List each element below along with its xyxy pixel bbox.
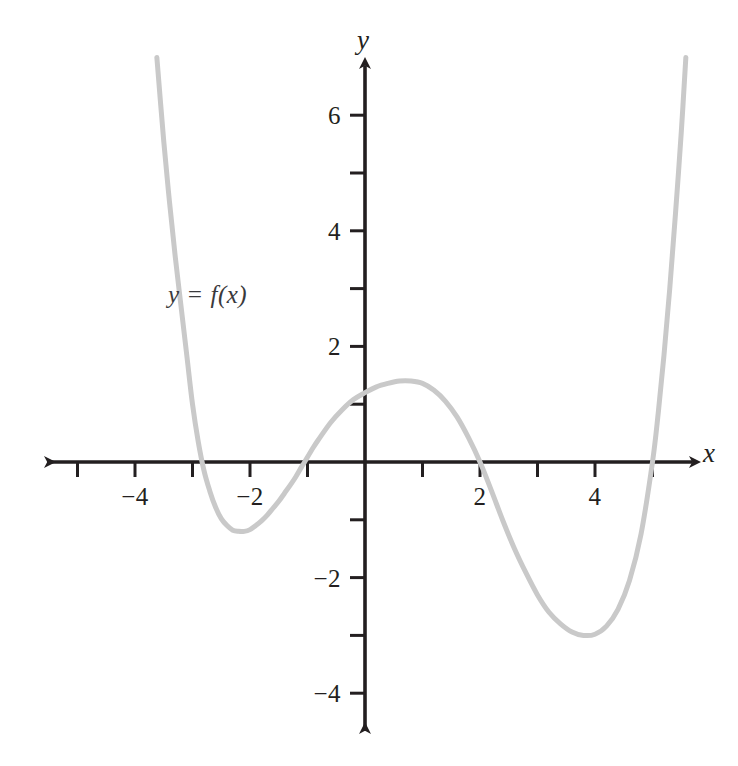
y-tick-label-6: 6: [328, 103, 341, 128]
x-tick-label--2: −2: [236, 484, 264, 509]
axes-group: [47, 66, 692, 731]
x-axis-label: x: [703, 440, 715, 467]
y-tick-label-2: 2: [328, 334, 341, 359]
y-tick-label--2: −2: [313, 566, 341, 591]
x-tick-label-2: 2: [474, 484, 487, 509]
plot-canvas: [0, 0, 738, 766]
graph-figure: −4−224642−2−4 x y y = f(x): [0, 0, 738, 766]
function-equation-label: y = f(x): [168, 282, 247, 307]
x-tick-label-4: 4: [589, 484, 602, 509]
function-curve-group: [157, 57, 686, 635]
x-tick-label--4: −4: [121, 484, 149, 509]
y-axis-label: y: [357, 27, 369, 54]
function-curve: [157, 57, 686, 635]
y-tick-label-4: 4: [328, 219, 341, 244]
y-tick-label--4: −4: [313, 681, 341, 706]
